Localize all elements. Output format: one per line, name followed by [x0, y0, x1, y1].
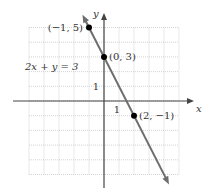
y-tick-label: 1: [93, 81, 99, 92]
y-axis-arrow: [101, 13, 107, 20]
data-point-label: (−1, 5): [48, 22, 83, 33]
line-arrow-end: [163, 176, 169, 185]
data-point: [101, 54, 107, 60]
line-arrow-start: [83, 15, 89, 24]
line-2x-plus-y-eq-3: [85, 19, 168, 181]
data-point: [131, 113, 137, 119]
x-axis-label: x: [196, 103, 202, 114]
x-tick-label: 1: [114, 104, 120, 115]
series: (−1, 5)(0, 3)(2, −1): [48, 15, 175, 185]
data-point-label: (0, 3): [109, 51, 136, 62]
data-point: [86, 25, 92, 31]
equation-label: 2x + y = 3: [24, 61, 79, 72]
axes: [13, 13, 194, 188]
x-axis-arrow: [187, 98, 194, 104]
y-axis-label: y: [92, 8, 99, 19]
coordinate-plane: (−1, 5)(0, 3)(2, −1) x y 1 1 2x + y = 3: [0, 0, 206, 196]
data-point-label: (2, −1): [139, 110, 174, 121]
